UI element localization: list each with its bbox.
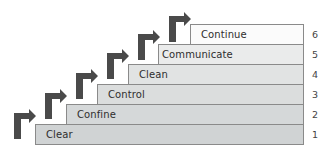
bent-arrow-icon xyxy=(168,11,192,43)
step-label: Clean xyxy=(139,69,168,80)
bent-arrow-icon xyxy=(75,68,99,100)
bent-arrow-icon xyxy=(137,29,161,61)
step-number-5: 5 xyxy=(310,49,320,60)
step-1: Clear xyxy=(35,124,304,145)
step-label: Continue xyxy=(201,29,247,40)
step-number-2: 2 xyxy=(310,109,320,120)
step-number-3: 3 xyxy=(310,89,320,100)
bent-arrow-icon xyxy=(44,88,68,120)
step-label: Clear xyxy=(46,129,73,140)
step-3: Control xyxy=(97,84,304,104)
step-label: Communicate xyxy=(162,49,233,60)
step-number-1: 1 xyxy=(310,129,320,140)
bent-arrow-icon xyxy=(13,108,37,140)
step-label: Confine xyxy=(77,109,116,120)
step-number-6: 6 xyxy=(310,29,320,40)
bent-arrow-icon xyxy=(106,48,130,80)
step-2: Confine xyxy=(66,104,304,124)
step-5: Communicate xyxy=(158,44,304,64)
step-number-4: 4 xyxy=(310,69,320,80)
step-6: Continue xyxy=(190,24,304,44)
step-4: Clean xyxy=(128,64,304,84)
step-label: Control xyxy=(108,89,145,100)
